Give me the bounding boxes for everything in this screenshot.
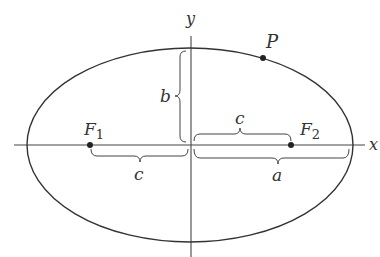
focus-f2-label: F2 [299, 119, 320, 142]
brace-c-left [91, 149, 188, 162]
focus-f1-label: F1 [83, 119, 104, 142]
brace-b [175, 51, 186, 142]
x-axis-label: x [369, 135, 378, 154]
focus-f2-point [288, 142, 294, 148]
ellipse-diagram: y x P b c c a F1 F2 [0, 0, 380, 257]
brace-a [194, 149, 349, 164]
c-right-label: c [235, 108, 245, 128]
y-axis-label: y [185, 9, 196, 28]
focus-f1-point [87, 142, 93, 148]
point-p-label: P [265, 31, 279, 52]
a-label: a [272, 165, 282, 185]
b-label: b [160, 86, 171, 106]
point-p [260, 55, 266, 61]
brace-c-right [194, 128, 291, 141]
c-left-label: c [134, 164, 144, 184]
